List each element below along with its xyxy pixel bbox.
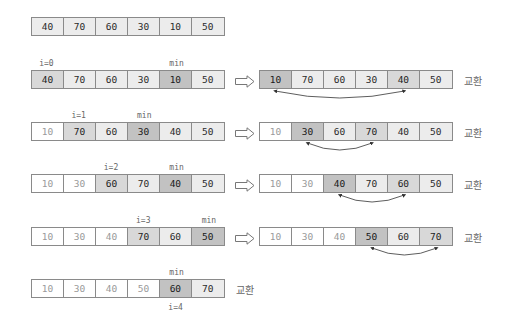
swap-arc [275, 91, 404, 98]
swap-arc [340, 195, 405, 202]
swap-arc [372, 248, 437, 255]
swap-arcs [0, 0, 510, 319]
swap-arc [307, 143, 372, 150]
